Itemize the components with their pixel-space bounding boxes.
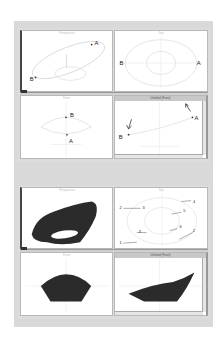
svg-text:4: 4 [193, 199, 196, 204]
point-label-b: B [119, 134, 123, 140]
vertical-scrollbar[interactable] [202, 258, 206, 312]
vertical-scrollbar[interactable] [202, 101, 206, 155]
viewport-top[interactable]: Top B A [114, 30, 208, 92]
perspective-curve-view: A B [22, 31, 112, 91]
point-label-a: A [197, 60, 201, 66]
top-curve-view: B A [115, 31, 207, 91]
horizontal-scrollbar[interactable] [115, 154, 203, 158]
viewport-front[interactable]: Front [20, 252, 113, 316]
svg-text:6: 6 [179, 224, 181, 229]
viewport-perspective[interactable]: Perspective A B [20, 30, 113, 92]
viewport-menu-icon[interactable] [21, 90, 27, 93]
point-label-a: A [194, 115, 198, 121]
point-label-b: B [119, 60, 123, 66]
svg-text:1: 1 [119, 240, 121, 245]
front-curve-view: B A [21, 96, 112, 158]
screenshot-surface-result: Perspective Top 2 3 4 5 6 1 [18, 185, 210, 319]
scanned-page: Perspective A B Top B A [14, 21, 213, 327]
arrow-icon [127, 119, 132, 129]
viewport-perspective[interactable]: Perspective [20, 187, 113, 249]
svg-text:2: 2 [119, 205, 121, 210]
perspective-surface-view [22, 188, 112, 248]
viewport-untitled-front[interactable]: Untitled (Front) [114, 252, 208, 316]
svg-text:5: 5 [183, 208, 185, 213]
viewport-untitled-front[interactable]: Untitled (Front) B A [114, 95, 208, 159]
point-label-b: B [70, 112, 74, 118]
viewport-top[interactable]: Top 2 3 4 5 6 1 2 3 [114, 187, 208, 249]
top-curves-view: 2 3 4 5 6 1 2 3 [115, 188, 207, 248]
point-label-b: B [30, 76, 34, 82]
point-label-a: A [69, 138, 73, 144]
point-label-a: A [95, 40, 99, 46]
arrow-icon [186, 104, 191, 112]
screenshot-curve-editing: Perspective A B Top B A [18, 28, 210, 162]
untitled-surface-view [115, 253, 206, 315]
viewport-front[interactable]: Front B A [20, 95, 113, 159]
svg-text:3: 3 [139, 229, 141, 234]
front-surface-view [21, 253, 112, 315]
viewport-menu-icon[interactable] [21, 247, 27, 250]
svg-text:2: 2 [193, 228, 195, 233]
horizontal-scrollbar[interactable] [115, 311, 203, 315]
svg-text:3: 3 [143, 205, 145, 210]
untitled-curve-view: B A [115, 96, 206, 158]
